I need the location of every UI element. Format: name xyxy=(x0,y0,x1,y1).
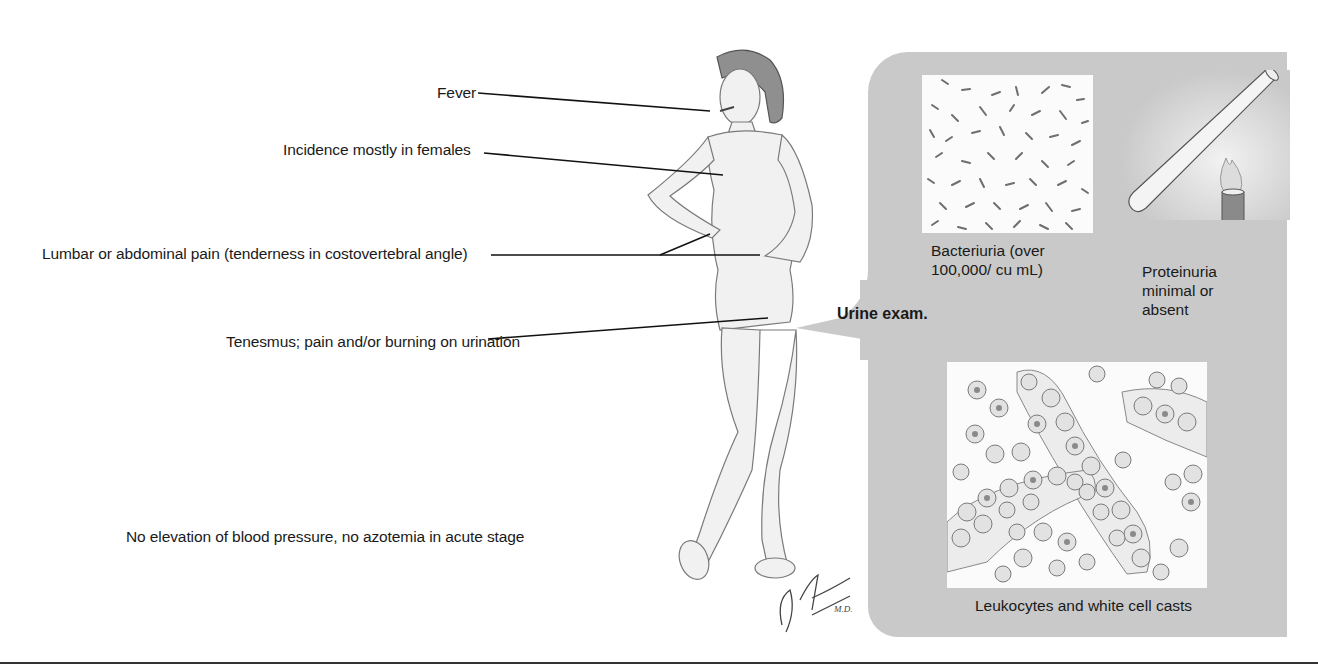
leukocytes-caption: Leukocytes and white cell casts xyxy=(975,596,1192,615)
proteinuria-caption-line1: Proteinuria xyxy=(1142,262,1217,281)
artist-signature: M.D. xyxy=(780,575,852,632)
female-figure xyxy=(648,50,813,583)
proteinuria-caption-line2: minimal or xyxy=(1142,281,1217,300)
burner-icon xyxy=(1222,189,1244,220)
proteinuria-caption-line3: absent xyxy=(1142,300,1217,319)
bacteriuria-caption-line2: 100,000/ cu mL) xyxy=(931,260,1045,279)
leukocyte-casts-illustration xyxy=(947,362,1207,588)
test-tube-flame-illustration xyxy=(1120,70,1290,220)
leukocytes-image xyxy=(947,362,1207,588)
bacteriuria-caption: Bacteriuria (over 100,000/ cu mL) xyxy=(931,241,1045,279)
proteinuria-caption: Proteinuria minimal or absent xyxy=(1142,262,1217,319)
bacteriuria-caption-line1: Bacteriuria (over xyxy=(931,241,1045,260)
urine-exam-title: Urine exam. xyxy=(837,304,928,323)
bacteriuria-image xyxy=(922,75,1093,233)
svg-text:M.D.: M.D. xyxy=(833,604,853,614)
bottom-divider xyxy=(0,662,1318,664)
bacteria-rods-illustration xyxy=(922,75,1093,233)
